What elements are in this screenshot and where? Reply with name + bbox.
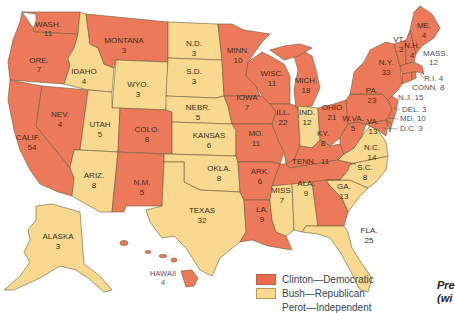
label-nc-name: N.C. xyxy=(364,143,380,152)
label-nd-name: N.D. xyxy=(186,39,202,48)
label-mn-name: MINN. xyxy=(227,46,250,55)
label-ar-ev: 6 xyxy=(258,177,263,186)
label-ut-ev: 5 xyxy=(98,130,103,139)
label-fl-ev: 25 xyxy=(365,236,374,245)
label-ak-name: ALASKA xyxy=(42,232,74,241)
label-wy-ev: 3 xyxy=(136,90,141,99)
label-il-ev: 22 xyxy=(279,118,288,127)
label-al-name: ALA. xyxy=(297,179,314,188)
label-ia-ev: 7 xyxy=(245,103,250,112)
label-ga-ev: 13 xyxy=(340,192,349,201)
caption-line-2: (wi xyxy=(437,292,455,305)
legend-swatch-clinton xyxy=(256,274,276,285)
label-tn-ev: 11 xyxy=(321,157,330,166)
label-mi-ev: 18 xyxy=(302,86,311,95)
label-oh-ev: 21 xyxy=(328,113,337,122)
label-sc-ev: 8 xyxy=(363,173,368,182)
label-ny-name: N.Y. xyxy=(379,58,394,67)
label-ma-ev: 12 xyxy=(429,58,438,67)
label-ia-name: IOWA xyxy=(236,93,258,102)
legend-label-clinton: Clinton—Democratic xyxy=(282,274,374,285)
label-ma-name: MASS. xyxy=(423,49,448,58)
label-ks-name: KANSAS xyxy=(193,131,225,140)
state-ct[interactable] xyxy=(402,72,412,84)
legend: Clinton—Democratic Bush—Republican Perot… xyxy=(256,272,374,313)
label-mo-ev: 11 xyxy=(252,139,261,148)
label-pa-ev: 23 xyxy=(368,96,377,105)
label-oh-name: OHIO xyxy=(322,103,342,112)
label-wi-ev: 11 xyxy=(268,79,277,88)
label-ny-ev: 33 xyxy=(382,68,391,77)
label-nc-ev: 14 xyxy=(368,153,377,162)
label-la-name: LA. xyxy=(256,205,268,214)
label-ut-name: UTAH xyxy=(89,120,110,129)
label-nm-name: N.M. xyxy=(134,178,151,187)
label-mt-name: MONTANA xyxy=(104,36,144,45)
label-co-ev: 8 xyxy=(145,135,150,144)
label-ms-name: MISS. xyxy=(271,186,293,195)
label-md: MD. 10 xyxy=(400,114,426,123)
label-ga-name: GA. xyxy=(337,182,351,191)
label-in-ev: 12 xyxy=(303,118,312,127)
label-nh-name: N.H. xyxy=(404,41,420,50)
label-ok-name: OKLA. xyxy=(207,164,231,173)
label-az-ev: 8 xyxy=(92,181,97,190)
label-tx-ev: 32 xyxy=(198,216,207,225)
label-id-name: IDAHO xyxy=(71,67,96,76)
label-wa-name: WASH. xyxy=(35,20,61,29)
legend-item-bush: Bush—Republican xyxy=(256,286,374,300)
label-wa-ev: 11 xyxy=(44,29,53,38)
label-ky-name: KY. xyxy=(317,129,329,138)
label-mo-name: MO. xyxy=(248,129,263,138)
label-nh-ev: 4 xyxy=(410,51,415,60)
label-mt-ev: 3 xyxy=(122,46,127,55)
label-sd-name: S.D. xyxy=(186,67,202,76)
legend-item-perot: Perot—Independent xyxy=(256,300,374,313)
label-il-name: ILL. xyxy=(276,108,289,117)
label-in-name: IND. xyxy=(299,108,315,117)
label-me-ev: 4 xyxy=(422,31,427,40)
label-id-ev: 4 xyxy=(82,77,87,86)
label-va-name: VA. xyxy=(367,117,379,126)
legend-label-perot: Perot—Independent xyxy=(282,302,372,313)
label-ca-name: CALIF. xyxy=(16,133,40,142)
legend-label-bush: Bush—Republican xyxy=(282,288,365,299)
label-ms-ev: 7 xyxy=(280,196,285,205)
label-ri: R.I. 4 xyxy=(424,74,444,83)
label-ct: CONN. 8 xyxy=(412,83,445,92)
label-nj: N.J. 15 xyxy=(398,93,424,102)
label-al-ev: 9 xyxy=(304,189,309,198)
label-ky-ev: 8 xyxy=(321,139,326,148)
legend-item-clinton: Clinton—Democratic xyxy=(256,272,374,286)
label-ne-ev: 5 xyxy=(196,113,201,122)
legend-swatch-bush xyxy=(256,288,276,299)
label-az-name: ARIZ. xyxy=(84,171,104,180)
label-ne-name: NEBR. xyxy=(186,103,210,112)
label-wv-name: W.VA. xyxy=(342,114,364,123)
label-nm-ev: 5 xyxy=(140,188,145,197)
label-ar-name: ARK. xyxy=(251,167,270,176)
label-ca-ev: 54 xyxy=(28,143,37,152)
state-ri[interactable] xyxy=(412,72,416,80)
label-tx-name: TEXAS xyxy=(189,206,215,215)
label-co-name: COLO. xyxy=(135,125,160,134)
label-ks-ev: 6 xyxy=(207,141,212,150)
label-or-name: ORE. xyxy=(29,56,49,65)
label-fl-name: FLA. xyxy=(361,226,378,235)
label-la-ev: 9 xyxy=(260,215,265,224)
label-nd-ev: 3 xyxy=(192,49,197,58)
map-caption: Pre (wi xyxy=(437,279,455,305)
label-me-name: ME. xyxy=(417,21,431,30)
label-mi-name: MICH. xyxy=(295,76,318,85)
label-or-ev: 7 xyxy=(37,65,42,74)
label-nv-name: NEV. xyxy=(51,110,69,119)
label-sd-ev: 3 xyxy=(192,77,197,86)
label-pa-name: PA. xyxy=(366,86,378,95)
label-dc: D.C. 3 xyxy=(400,124,423,133)
label-wy-name: WYO. xyxy=(127,80,148,89)
label-hi-name: HAWAII xyxy=(150,269,176,278)
label-ok-ev: 8 xyxy=(217,174,222,183)
label-sc-name: S.C. xyxy=(357,163,373,172)
label-ak-ev: 3 xyxy=(56,242,61,251)
